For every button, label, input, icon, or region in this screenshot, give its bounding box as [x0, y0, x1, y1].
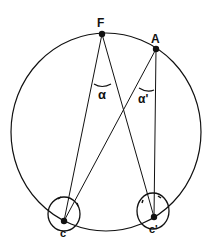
- line-f-c-prime: [102, 34, 154, 217]
- label-alpha: α: [98, 87, 106, 102]
- label-alpha-prime: α': [138, 92, 148, 106]
- arrow-tick-cp-right: [158, 196, 161, 198]
- point-a: [153, 46, 159, 52]
- arrow-tick-c-right: [77, 203, 78, 206]
- label-f: F: [97, 16, 104, 30]
- main-circle: [11, 33, 201, 231]
- label-c-prime: c': [149, 223, 158, 235]
- line-a-c-prime: [154, 49, 156, 217]
- diagram-canvas: F A c c' α α': [0, 0, 212, 252]
- arrow-tick-c-left: [58, 197, 61, 199]
- point-f: [99, 31, 105, 37]
- line-f-c: [64, 34, 102, 221]
- arrow-tick-cp-left: [142, 200, 143, 203]
- point-c-prime: [151, 214, 157, 220]
- line-a-c: [64, 49, 156, 221]
- angle-arc-alpha-prime: [139, 88, 154, 91]
- label-a: A: [151, 32, 160, 46]
- label-c: c: [60, 227, 66, 239]
- point-c: [61, 218, 67, 224]
